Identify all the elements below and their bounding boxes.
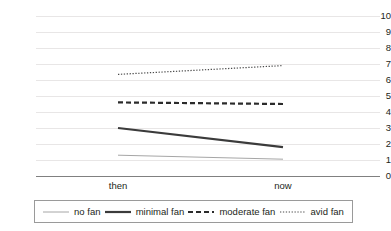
legend-item-no-fan: no fan — [43, 207, 100, 217]
series-layer — [0, 0, 391, 195]
series-minimal-fan — [118, 128, 283, 147]
series-no-fan — [118, 155, 283, 159]
x-tick-label-then: then — [88, 180, 148, 191]
legend-item-avid-fan: avid fan — [280, 207, 344, 217]
series-avid-fan — [118, 66, 283, 75]
legend-label-minimal-fan: minimal fan — [136, 207, 185, 217]
legend-label-moderate-fan: moderate fan — [219, 207, 275, 217]
line-chart: 10 9 8 7 6 5 4 3 2 1 0 — [0, 0, 391, 231]
series-moderate-fan — [118, 102, 283, 104]
legend-label-no-fan: no fan — [74, 207, 100, 217]
chart-legend: no fan minimal fan moderate fan avid fan — [34, 200, 353, 223]
legend-line-solid-light-icon — [43, 208, 69, 216]
legend-item-moderate-fan: moderate fan — [188, 207, 275, 217]
legend-line-dotted-icon — [280, 208, 306, 216]
legend-item-minimal-fan: minimal fan — [105, 207, 185, 217]
plot-area: 10 9 8 7 6 5 4 3 2 1 0 — [0, 0, 391, 195]
legend-line-dashed-icon — [188, 208, 214, 216]
legend-label-avid-fan: avid fan — [311, 207, 344, 217]
x-tick-label-now: now — [253, 180, 313, 191]
legend-line-solid-bold-icon — [105, 208, 131, 216]
